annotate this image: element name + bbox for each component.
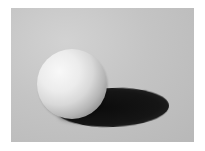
gray-surface [11, 8, 194, 142]
sphere [37, 49, 107, 119]
